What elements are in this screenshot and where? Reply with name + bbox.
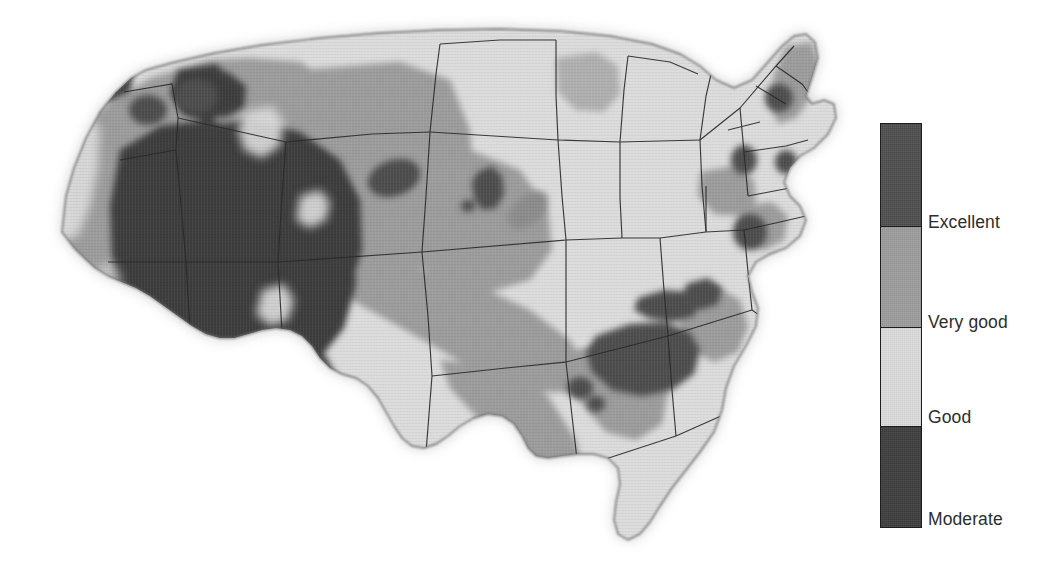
legend-label-moderate: Moderate (928, 511, 1003, 529)
legend-label-very-good: Very good (928, 314, 1008, 332)
legend-label-excellent: Excellent (928, 214, 1000, 232)
swatch-texture (881, 427, 921, 528)
legend-label-good: Good (928, 409, 971, 427)
swatch-texture (881, 328, 921, 426)
swatch-texture (881, 124, 921, 226)
legend-swatch-very-good[interactable] (881, 226, 921, 327)
legend-swatch-good[interactable] (881, 327, 921, 426)
us-quality-map-figure: Excellent Very good Good Moderate (0, 0, 1051, 586)
map-panel (0, 0, 868, 586)
legend-swatch-moderate[interactable] (881, 426, 921, 528)
legend-color-bar (880, 123, 922, 528)
united-states-map (0, 0, 868, 586)
legend-swatch-excellent[interactable] (881, 124, 921, 226)
quality-legend: Excellent Very good Good Moderate (876, 118, 1051, 534)
swatch-texture (881, 227, 921, 327)
legend-label-column: Excellent Very good Good Moderate (928, 118, 1050, 534)
